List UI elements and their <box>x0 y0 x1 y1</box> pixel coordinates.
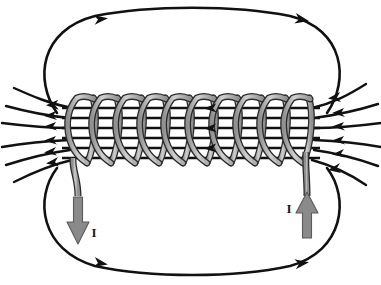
left-field-line-fan <box>2 88 72 182</box>
right-lead-wire-highlight <box>306 152 307 196</box>
solenoid-diagram-svg: I I <box>0 0 381 285</box>
left-fan-arrowheads <box>44 99 59 166</box>
left-current-label: I <box>91 225 96 240</box>
right-fan-arrowheads <box>328 92 345 173</box>
left-field-line-3 <box>2 123 70 128</box>
right-fan-arrowhead-4 <box>332 136 345 145</box>
right-field-line-3 <box>314 123 381 128</box>
upper-loop-arrowhead-right <box>294 13 309 26</box>
left-field-line-2 <box>6 106 70 118</box>
solenoid-coil <box>68 96 312 163</box>
left-field-line-4 <box>2 140 70 147</box>
right-current-label: I <box>286 201 291 216</box>
right-current-arrow <box>296 192 318 238</box>
right-field-line-2 <box>314 104 378 118</box>
right-field-line-4 <box>314 140 381 147</box>
left-fan-arrowhead-3 <box>44 122 57 131</box>
left-current-arrow <box>67 197 89 244</box>
current-arrows <box>67 192 318 244</box>
left-field-line-6 <box>14 160 72 182</box>
solenoid-figure: I I <box>0 0 381 285</box>
right-field-line-fan <box>312 84 381 185</box>
left-field-line-1 <box>14 88 72 108</box>
